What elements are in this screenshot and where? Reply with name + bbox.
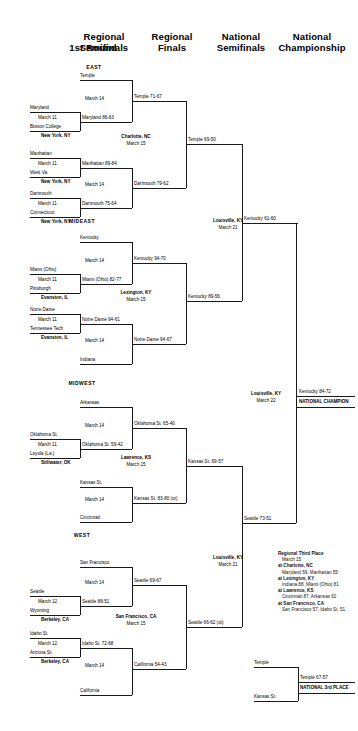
west-semi1-vert: [132, 567, 133, 606]
west-g1-result: Seattle 88-51: [82, 599, 109, 605]
east-g3-result: Dartmouth 75-64: [82, 201, 116, 207]
mideast-bye-bottom-rule: [80, 364, 132, 365]
midwest-bye-bottom-rule: [80, 522, 132, 523]
west-bye-bottom: California: [80, 688, 99, 694]
east-g2-site: New York, NY: [41, 179, 70, 185]
east-final-date: March 15: [108, 141, 164, 147]
east-final-site: Charlotte, NC: [108, 134, 164, 140]
mideast-g1-team1-rule: [30, 274, 80, 275]
mideast-g2-team2-rule: [30, 333, 80, 334]
third-place-score-3: San Francisco 57, Idaho St. 51: [278, 607, 345, 613]
east-semi1-result-rule: [132, 101, 186, 102]
east-final-result: Temple 69-50: [188, 137, 216, 143]
mideast-bye-bottom: Indiana: [80, 357, 95, 363]
east-g2-team1-rule: [30, 158, 80, 159]
midwest-bye-bottom: Cincinnati: [80, 515, 100, 521]
national-final-site: Louisville, KY: [236, 391, 296, 397]
mideast-g1-result: Miami (Ohio) 82-77: [82, 277, 121, 283]
third-national-label-rule: [298, 693, 355, 694]
mideast-bye-top: Kentucky: [80, 235, 99, 241]
midwest-semi1-result: Oklahoma St. 65-40: [134, 421, 175, 427]
third-place-score-0: Maryland 59, Manhattan 55: [278, 570, 345, 576]
mideast-g2-result-rule: [80, 324, 132, 325]
east-g1-team1: Maryland: [30, 105, 49, 111]
mideast-final-result: Kentucky 89-56: [188, 294, 220, 300]
third-national-team-bottom-rule: [254, 701, 298, 702]
midwest-final-result-rule: [186, 466, 242, 467]
east-g2-result: Manhattan 89-84: [82, 161, 117, 167]
east-g1-team2-rule: [30, 131, 80, 132]
west-g2-team2-rule: [30, 657, 80, 658]
west-g1-team1: Seattle: [30, 589, 44, 595]
national-semi-bottom-result: Seattle 73-51: [244, 516, 271, 522]
third-national-team-bottom: Kansas St.: [254, 694, 276, 700]
west-semi2-result-rule: [132, 669, 186, 670]
mideast-semi1-result: Kentucky 94-70: [134, 256, 166, 262]
west-semi1-date: March 14: [85, 580, 104, 586]
mideast-g1-result-rule: [80, 284, 132, 285]
west-g1-result-rule: [80, 606, 132, 607]
west-bye-top-rule: [80, 567, 132, 568]
mideast-semi1-date: March 14: [85, 258, 104, 264]
bracket-diagram: 1st Round Regional Semifinals Regional F…: [0, 0, 358, 731]
east-semi2-result: Dartmouth 79-62: [134, 181, 168, 187]
west-final-date: March 15: [104, 621, 168, 627]
national-final-result-rule: [297, 396, 355, 397]
midwest-g1-team2-rule: [30, 458, 80, 459]
midwest-bye-mid-rule: [80, 487, 132, 488]
third-place-block: Regional Third Place March 15 at Charlot…: [278, 551, 345, 613]
east-g2-result-rule: [80, 168, 132, 169]
national-final-vert: [296, 223, 297, 523]
mideast-semi2-date: March 14: [85, 338, 104, 344]
mideast-g1-date: March 11: [38, 277, 57, 283]
third-national-team-top-rule: [254, 667, 298, 668]
third-national-team-top: Temple: [254, 660, 269, 666]
east-g1-site: New York, NY: [41, 133, 70, 139]
midwest-semi2-result-rule: [132, 503, 186, 504]
mideast-g1-team1: Miami (Ohio): [30, 267, 56, 273]
mideast-semi2-result: Notre Dame 94-67: [134, 337, 172, 343]
east-g3-team2: Connecticut: [30, 210, 54, 216]
east-g3-result-rule: [80, 208, 132, 209]
west-semi2-result: California 54-43: [134, 662, 166, 668]
east-g3-team1-rule: [30, 198, 80, 199]
east-bye-top: Temple: [80, 73, 95, 79]
national-final-date: March 22: [236, 398, 296, 404]
midwest-final-site: Lawrence, KS: [108, 455, 164, 461]
midwest-semi1-date: March 14: [85, 423, 104, 429]
midwest-bye-mid: Kansas St.: [80, 480, 102, 486]
midwest-semi1-result-rule: [132, 428, 186, 429]
mideast-final-date: March 15: [108, 297, 164, 303]
west-g2-site: Berkeley, CA: [41, 659, 69, 665]
midwest-semi2-vert: [132, 487, 133, 522]
midwest-final-date: March 15: [108, 462, 164, 468]
east-g1-team1-rule: [30, 112, 80, 113]
region-label-mideast: MIDEAST: [52, 218, 112, 224]
west-semi2-date: March 14: [85, 663, 104, 669]
west-bye-top: San Francisco: [80, 560, 109, 566]
east-g3-date: March 11: [38, 201, 57, 207]
national-semi-top-result-rule: [242, 223, 298, 224]
mideast-g2-team1: Notre Dame: [30, 307, 55, 313]
national-semi-top-result: Kentucky 61-60: [244, 216, 276, 222]
national-semi-bottom-vert: [242, 466, 243, 627]
midwest-semi2-date: March 14: [85, 497, 104, 503]
east-g1-team2: Boston College: [30, 124, 61, 130]
mideast-bye-top-rule: [80, 242, 132, 243]
mideast-g2-team2: Tennessee Tech: [30, 326, 63, 332]
east-g1-result: Maryland 86-63: [82, 115, 114, 121]
midwest-g1-team1-rule: [30, 439, 80, 440]
midwest-bye-top-rule: [80, 407, 132, 408]
midwest-final-result: Kansas St. 69-57: [188, 459, 223, 465]
mideast-g2-date: March 11: [38, 317, 57, 323]
third-national-result: Temple 67-57: [300, 675, 328, 681]
west-g1-team1-rule: [30, 596, 80, 597]
mideast-final-vert: [186, 263, 187, 344]
region-label-west: WEST: [52, 532, 112, 538]
national-final-result: Kentucky 84-72: [299, 389, 331, 395]
west-g2-team1: Idaho St.: [30, 631, 48, 637]
region-label-east: EAST: [64, 64, 124, 70]
mideast-semi1-result-rule: [132, 263, 186, 264]
midwest-g1-date: March 11: [38, 442, 57, 448]
midwest-g1-result: Oklahoma St. 59-42: [82, 442, 123, 448]
